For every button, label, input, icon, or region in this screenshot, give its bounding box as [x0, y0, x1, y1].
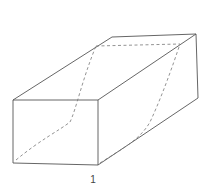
hidden-left-curve: [16, 46, 96, 160]
front-face: [13, 100, 98, 165]
figure-label: 1: [88, 174, 98, 185]
hidden-top-edge: [96, 44, 180, 46]
right-face-edges: [98, 34, 198, 165]
box-diagram: [0, 0, 208, 186]
hidden-right-curve: [100, 44, 180, 163]
